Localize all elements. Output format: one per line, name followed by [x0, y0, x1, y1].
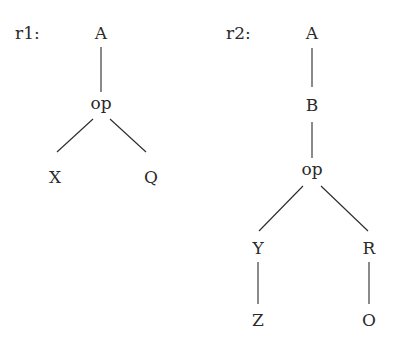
edge-op-y — [259, 186, 303, 231]
node-y: Y — [251, 238, 264, 258]
node-x: X — [49, 167, 62, 187]
node-a: A — [94, 23, 108, 43]
tree-r2: r2: A B op Y R Z O — [226, 23, 377, 330]
tree-label-r2: r2: — [226, 23, 251, 43]
node-z: Z — [252, 310, 264, 330]
node-a: A — [305, 23, 319, 43]
node-o: O — [362, 310, 376, 330]
tree-label-r1: r1: — [15, 23, 40, 43]
node-op: op — [301, 159, 322, 179]
node-b: B — [306, 95, 319, 115]
rule-trees-diagram: r1: A op X Q r2: A B op Y R Z O — [0, 0, 398, 345]
node-op: op — [90, 93, 111, 113]
edge-op-x — [57, 119, 93, 152]
edge-op-q — [110, 119, 146, 152]
node-r: R — [363, 238, 377, 258]
node-q: Q — [144, 167, 158, 187]
edge-op-r — [321, 186, 368, 231]
tree-r1: r1: A op X Q — [15, 23, 158, 187]
